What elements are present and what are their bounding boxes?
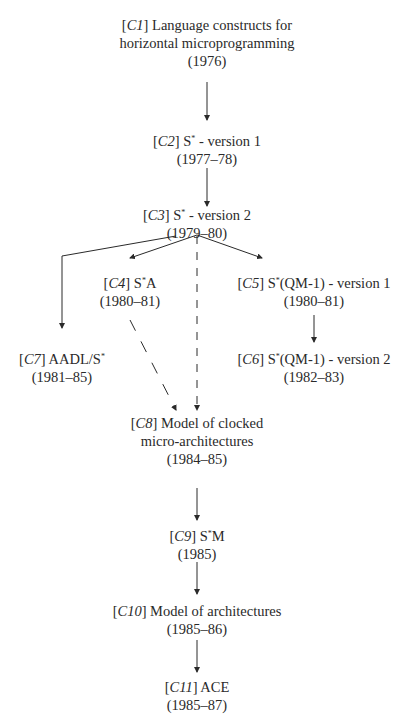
node-id: C — [242, 351, 252, 367]
node-id: C — [127, 17, 137, 33]
node-title: Language constructs for — [152, 17, 292, 33]
node-id: C — [117, 603, 127, 619]
node-title: Model of clocked — [161, 415, 263, 431]
node-id: C — [158, 133, 168, 149]
node-title: ACE — [200, 679, 229, 695]
node-years: (1982–83) — [237, 368, 390, 386]
node-id: C — [24, 351, 34, 367]
node-years: (1981–85) — [19, 368, 105, 386]
node-title-rest: - version 1 — [195, 133, 261, 149]
node-id-num: 5 — [252, 275, 259, 291]
star-superscript: * — [101, 352, 105, 361]
edge-c4-c8-dashed — [130, 320, 176, 410]
node-id-num: 4 — [118, 275, 125, 291]
node-title-rest: (QM-1) - version 2 — [280, 351, 391, 367]
node-title-rest: (QM-1) - version 1 — [280, 275, 391, 291]
node-c11: [C11] ACE (1985–87) — [165, 678, 230, 714]
node-years: (1985) — [169, 545, 224, 563]
node-c6: [C6] S*(QM-1) - version 2 (1982–83) — [237, 348, 390, 386]
node-years: (1985–86) — [113, 620, 282, 638]
node-id-num: 6 — [252, 351, 259, 367]
node-title-rest: M — [212, 528, 225, 544]
node-id-num: 8 — [145, 415, 152, 431]
node-title: S — [134, 275, 142, 291]
node-id: C — [174, 528, 184, 544]
node-id-num: 10 — [127, 603, 142, 619]
node-c10: [C10] Model of architectures (1985–86) — [113, 602, 282, 638]
node-id-num: 11 — [179, 679, 192, 695]
node-c3: [C3] S* - version 2 (1979–80) — [143, 204, 251, 242]
node-id: C — [108, 275, 118, 291]
node-title-rest: A — [146, 275, 156, 291]
node-years: (1980–81) — [100, 292, 160, 310]
node-id: C — [136, 415, 146, 431]
node-id: C — [242, 275, 252, 291]
node-years: (1977–78) — [153, 150, 261, 168]
node-id: C — [148, 207, 158, 223]
node-c9: [C9] S*M (1985) — [169, 525, 224, 563]
node-c5: [C5] S*(QM-1) - version 1 (1980–81) — [237, 272, 390, 310]
node-c8: [C8] Model of clocked micro-architecture… — [131, 414, 264, 468]
node-id-num: 9 — [184, 528, 191, 544]
node-c1: [C1] Language constructs for horizontal … — [119, 16, 294, 70]
node-c2: [C2] S* - version 1 (1977–78) — [153, 130, 261, 168]
node-c4: [C4] S*A (1980–81) — [100, 272, 160, 310]
node-c7: [C7] AADL/S* (1981–85) — [19, 348, 105, 386]
node-years: (1985–87) — [165, 696, 230, 714]
node-years: (1980–81) — [237, 292, 390, 310]
node-title: AADL/S — [49, 351, 101, 367]
node-years: (1984–85) — [131, 450, 264, 468]
node-id-num: 1 — [136, 17, 143, 33]
node-id-num: 3 — [158, 207, 165, 223]
node-title-line2: micro-architectures — [131, 432, 264, 450]
node-title-rest: - version 2 — [185, 207, 251, 223]
node-id-num: 2 — [168, 133, 175, 149]
node-id-num: 7 — [34, 351, 41, 367]
node-title: Model of architectures — [150, 603, 281, 619]
node-title-line2: horizontal microprogramming — [119, 34, 294, 52]
node-years: (1979–80) — [143, 224, 251, 242]
node-id: C — [170, 679, 180, 695]
node-years: (1976) — [119, 52, 294, 70]
